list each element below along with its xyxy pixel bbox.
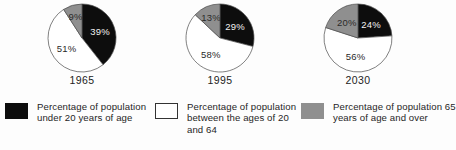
pie-slice-value-label: 51% <box>57 43 77 54</box>
pie-slice-value-label: 20% <box>337 17 357 28</box>
pie-slice-value-label: 29% <box>225 21 245 32</box>
pie-slices-1965: 39%51%9% <box>48 4 116 72</box>
pie-slice-value-label: 56% <box>346 51 366 62</box>
pie-chart-1965: 39%51%9% 1965 <box>27 0 137 95</box>
pie-chart-figure: 39%51%9% 1965 29%58%13% 1995 24%56%20% 2… <box>0 0 456 150</box>
pie-slices-1995: 29%58%13% <box>186 4 254 72</box>
legend-swatch-white-icon <box>155 103 178 119</box>
pie-chart-1995: 29%58%13% 1995 <box>165 0 275 95</box>
pie-slice-value-label: 9% <box>69 11 83 22</box>
chart-legend: Percentage of population under 20 years … <box>0 100 456 150</box>
pie-slice-value-label: 24% <box>361 19 381 30</box>
pie-slice-value-label: 58% <box>201 49 221 60</box>
legend-label-20-to-64: Percentage of population between the age… <box>187 100 301 135</box>
legend-label-65-and-over: Percentage of population 65 years of age… <box>333 100 456 124</box>
pie-svg-1965: 39%51%9% <box>27 2 137 74</box>
legend-item-65-and-over: Percentage of population 65 years of age… <box>301 100 456 124</box>
legend-item-under-20: Percentage of population under 20 years … <box>5 100 155 124</box>
pie-svg-1995: 29%58%13% <box>165 2 275 74</box>
legend-swatch-gray-icon <box>301 103 324 119</box>
legend-label-under-20: Percentage of population under 20 years … <box>37 100 155 124</box>
pie-year-label-1995: 1995 <box>165 74 275 86</box>
pie-chart-row: 39%51%9% 1965 29%58%13% 1995 24%56%20% 2… <box>0 0 456 95</box>
legend-item-20-to-64: Percentage of population between the age… <box>155 100 301 135</box>
pie-slice-value-label: 13% <box>201 12 221 23</box>
pie-chart-2030: 24%56%20% 2030 <box>303 0 413 95</box>
pie-slice-value-label: 39% <box>90 26 110 37</box>
pie-svg-2030: 24%56%20% <box>303 2 413 74</box>
legend-swatch-black-icon <box>5 103 28 119</box>
pie-slices-2030: 24%56%20% <box>324 4 392 72</box>
pie-year-label-2030: 2030 <box>303 74 413 86</box>
pie-year-label-1965: 1965 <box>27 74 137 86</box>
